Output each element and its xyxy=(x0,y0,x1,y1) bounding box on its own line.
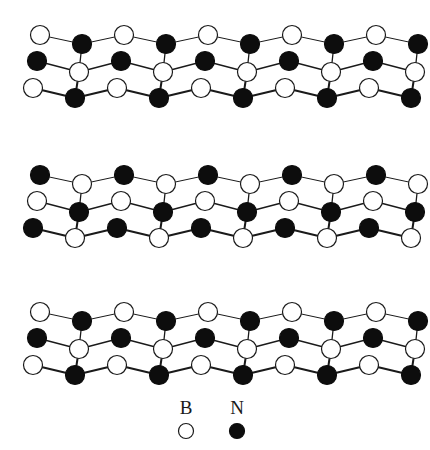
atom-boron xyxy=(192,79,211,98)
atom-nitrogen xyxy=(28,52,47,71)
atom-boron xyxy=(24,79,43,98)
atom-nitrogen xyxy=(241,312,260,331)
atom-nitrogen xyxy=(73,35,92,54)
legend-swatch-open-circle xyxy=(179,424,194,439)
atom-boron xyxy=(73,175,92,194)
legend-label-n: N xyxy=(230,397,244,418)
atom-boron xyxy=(241,175,260,194)
atom-nitrogen xyxy=(112,329,131,348)
atom-nitrogen xyxy=(238,203,257,222)
atom-nitrogen xyxy=(409,35,428,54)
atom-boron xyxy=(364,192,383,211)
atom-boron xyxy=(318,229,337,248)
atom-boron xyxy=(325,175,344,194)
atom-nitrogen xyxy=(325,312,344,331)
atom-boron xyxy=(199,26,218,45)
atom-nitrogen xyxy=(318,89,337,108)
atom-boron xyxy=(367,303,386,322)
atom-boron xyxy=(283,303,302,322)
atom-boron xyxy=(115,26,134,45)
atom-boron xyxy=(199,303,218,322)
crystal-structure-figure: BN xyxy=(0,0,430,450)
atom-boron xyxy=(70,63,89,82)
atom-nitrogen xyxy=(192,219,211,238)
atom-boron xyxy=(150,229,169,248)
atom-nitrogen xyxy=(241,35,260,54)
atom-boron xyxy=(238,340,257,359)
legend-item-b: B xyxy=(179,397,194,439)
atom-nitrogen xyxy=(322,203,341,222)
atom-nitrogen xyxy=(115,166,134,185)
atom-nitrogen xyxy=(196,329,215,348)
legend-swatch-filled-circle xyxy=(230,424,245,439)
legend-label-b: B xyxy=(180,397,193,418)
atom-nitrogen xyxy=(66,89,85,108)
atom-nitrogen xyxy=(150,366,169,385)
atom-nitrogen xyxy=(364,52,383,71)
atom-boron xyxy=(70,340,89,359)
atom-nitrogen xyxy=(280,329,299,348)
atom-nitrogen xyxy=(28,329,47,348)
atom-boron xyxy=(238,63,257,82)
atom-boron xyxy=(360,356,379,375)
atom-boron xyxy=(192,356,211,375)
atom-nitrogen xyxy=(409,312,428,331)
atom-nitrogen xyxy=(154,203,173,222)
atom-boron xyxy=(367,26,386,45)
atom-boron xyxy=(276,356,295,375)
atom-nitrogen xyxy=(402,366,421,385)
atom-nitrogen xyxy=(157,312,176,331)
atom-nitrogen xyxy=(108,219,127,238)
atom-boron xyxy=(283,26,302,45)
atom-boron xyxy=(108,79,127,98)
atom-nitrogen xyxy=(73,312,92,331)
atom-boron xyxy=(115,303,134,322)
atom-boron xyxy=(406,63,425,82)
atom-boron xyxy=(402,229,421,248)
atom-nitrogen xyxy=(280,52,299,71)
atom-nitrogen xyxy=(325,35,344,54)
legend-item-n: N xyxy=(230,397,245,439)
atom-boron xyxy=(276,79,295,98)
atom-nitrogen xyxy=(283,166,302,185)
atom-nitrogen xyxy=(360,219,379,238)
atom-nitrogen xyxy=(196,52,215,71)
atom-nitrogen xyxy=(402,89,421,108)
atom-nitrogen xyxy=(364,329,383,348)
atom-boron xyxy=(280,192,299,211)
atom-nitrogen xyxy=(318,366,337,385)
atom-boron xyxy=(24,356,43,375)
atom-boron xyxy=(322,340,341,359)
atom-boron xyxy=(28,192,47,211)
atom-nitrogen xyxy=(150,89,169,108)
atom-nitrogen xyxy=(406,203,425,222)
atom-boron xyxy=(406,340,425,359)
atom-boron xyxy=(31,303,50,322)
atom-boron xyxy=(322,63,341,82)
atom-nitrogen xyxy=(199,166,218,185)
atom-nitrogen xyxy=(66,366,85,385)
atom-nitrogen xyxy=(112,52,131,71)
atom-boron xyxy=(66,229,85,248)
atom-boron xyxy=(154,340,173,359)
atom-nitrogen xyxy=(24,219,43,238)
atom-nitrogen xyxy=(31,166,50,185)
atom-boron xyxy=(409,175,428,194)
atom-boron xyxy=(157,175,176,194)
atom-nitrogen xyxy=(276,219,295,238)
atom-boron xyxy=(31,26,50,45)
atom-boron xyxy=(360,79,379,98)
atom-nitrogen xyxy=(234,366,253,385)
atom-boron xyxy=(196,192,215,211)
atom-boron xyxy=(108,356,127,375)
atom-nitrogen xyxy=(70,203,89,222)
atom-nitrogen xyxy=(367,166,386,185)
atom-nitrogen xyxy=(234,89,253,108)
atom-boron xyxy=(234,229,253,248)
atom-nitrogen xyxy=(157,35,176,54)
atom-boron xyxy=(112,192,131,211)
atom-boron xyxy=(154,63,173,82)
